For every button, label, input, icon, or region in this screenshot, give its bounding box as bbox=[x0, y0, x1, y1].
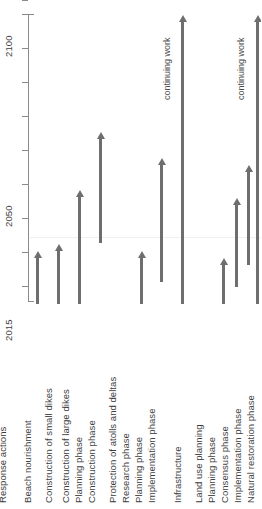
category-label-land-use-planning: Land use planning bbox=[193, 424, 204, 503]
axis-tick-2090b bbox=[22, 48, 28, 49]
arrow-head-large-dikes-construction bbox=[97, 132, 105, 139]
category-label-atolls-implementation: Implementation phase bbox=[146, 409, 157, 503]
category-label-infrastructure: Infrastructure bbox=[172, 446, 183, 503]
category-label-atolls-planning: Planning phase bbox=[133, 437, 144, 503]
category-label-small-dikes: Construction of small dikes bbox=[43, 388, 54, 503]
category-label-land-implementation: Implementation phase bbox=[232, 409, 243, 503]
axis-tick-2040 bbox=[22, 218, 28, 219]
axis-tick-2090 bbox=[22, 0, 28, 1]
axis-tick-2050 bbox=[22, 184, 28, 185]
axis-spine bbox=[28, 14, 29, 302]
arrow-head-natural-restoration bbox=[254, 15, 262, 22]
arrow-head-atolls-planning bbox=[158, 158, 166, 165]
arrow-head-atolls-implementation bbox=[179, 15, 187, 22]
axis-cap-bottom bbox=[28, 301, 34, 302]
category-label-large-dikes-planning: Planning phase bbox=[73, 437, 84, 503]
category-label-response-actions: Response actions bbox=[0, 427, 8, 503]
arrow-head-land-consensus bbox=[233, 198, 241, 205]
axis-label-2100: 2100 bbox=[3, 35, 14, 57]
axis-tick-2020 bbox=[22, 286, 28, 287]
annotation-continuing-work-2: continuing work bbox=[236, 37, 246, 100]
axis-tick-2030 bbox=[22, 252, 28, 253]
arrow-head-land-implementation bbox=[245, 165, 253, 172]
category-label-land-consensus: Consensus phase bbox=[219, 426, 230, 503]
axis-label-2050: 2050 bbox=[3, 205, 14, 227]
axis-tick-2080 bbox=[22, 82, 28, 83]
timeline-chart: 2100 2050 2015 continuing work bbox=[0, 0, 261, 509]
category-label-large-dikes: Construction of large dikes bbox=[60, 389, 71, 503]
category-label-natural-restoration: Natural restoration phase bbox=[245, 395, 256, 503]
category-label-beach-nourishment: Beach nourishment bbox=[22, 420, 33, 503]
arrow-head-small-dikes bbox=[55, 244, 63, 251]
axis-label-2015: 2015 bbox=[3, 319, 14, 341]
annotation-continuing-work-1: continuing work bbox=[162, 37, 172, 100]
arrow-head-atolls-research bbox=[138, 251, 146, 258]
arrow-head-large-dikes-planning bbox=[76, 190, 84, 197]
axis-tick-2060 bbox=[22, 150, 28, 151]
axis-tick-2100 bbox=[22, 14, 28, 15]
category-label-land-planning: Planning phase bbox=[206, 437, 217, 503]
category-label-large-dikes-construction: Construction phase bbox=[86, 420, 97, 503]
axis-tick-2070 bbox=[22, 116, 28, 117]
category-label-atolls-deltas: Protection of atolls and deltas bbox=[107, 377, 118, 503]
category-label-atolls-research: Research phase bbox=[120, 433, 131, 503]
arrow-head-land-planning bbox=[220, 258, 228, 265]
arrow-head-beach-nourishment bbox=[34, 251, 42, 258]
background-hairline bbox=[30, 237, 261, 238]
axis-cap-top bbox=[28, 14, 34, 15]
